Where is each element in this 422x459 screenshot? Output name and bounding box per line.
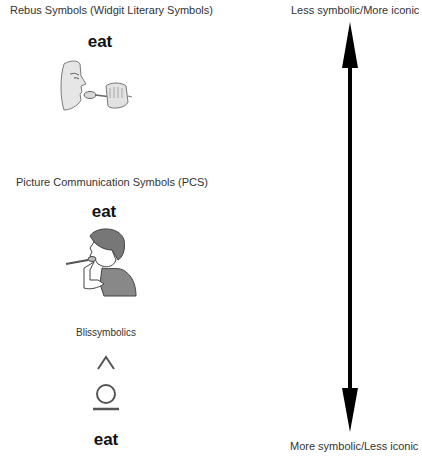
double-headed-vertical-arrow-icon [340,20,360,434]
rebus-section-title: Rebus Symbols (Widgit Literary Symbols) [10,4,213,16]
pcs-section-title: Picture Communication Symbols (PCS) [16,176,208,188]
face-eating-with-spoon-icon [50,58,134,114]
rebus-word-label: eat [88,32,113,52]
pcs-word-label: eat [92,202,117,222]
bliss-word-label: eat [94,430,119,450]
bliss-section-title: Blissymbolics [76,327,136,338]
bliss-eat-symbol-icon [90,352,122,414]
boy-eating-with-spoon-icon [64,226,138,298]
scale-top-label: Less symbolic/More iconic [291,4,419,16]
scale-bottom-label: More symbolic/Less iconic [290,440,418,452]
